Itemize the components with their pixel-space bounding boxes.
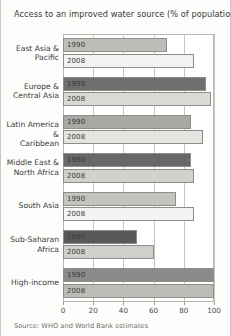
bar: 2008 (63, 284, 214, 298)
gridline-100 (214, 34, 215, 302)
bar-year-label: 2008 (67, 172, 85, 181)
source-note: Source: WHO and World Bank estimates (14, 322, 148, 330)
bar-group: 19902008 (63, 192, 214, 222)
bar: 2008 (63, 130, 203, 144)
x-tick (184, 302, 185, 305)
bar-year-label: 1990 (67, 233, 85, 242)
bar: 1990 (63, 192, 176, 206)
bar-group: 19902008 (63, 77, 214, 107)
bar-year-label: 1990 (67, 118, 85, 127)
x-tick (63, 302, 64, 305)
bar: 2008 (63, 207, 194, 221)
category-label: Europe & Central Asia (1, 82, 59, 101)
x-tick (154, 302, 155, 305)
bar-year-label: 2008 (67, 248, 85, 257)
bar-year-label: 1990 (67, 156, 85, 165)
category-label: East Asia & Pacific (1, 44, 59, 63)
category-label: High-income (1, 278, 59, 288)
x-tick-label: 80 (179, 306, 188, 315)
bar: 1990 (63, 38, 167, 52)
category-label: South Asia (1, 201, 59, 211)
bar: 1990 (63, 115, 191, 129)
bar-year-label: 1990 (67, 80, 85, 89)
bar: 2008 (63, 92, 211, 106)
x-tick (123, 302, 124, 305)
x-tick (214, 302, 215, 305)
bar-group: 19902008 (63, 268, 214, 298)
category-label: Latin America & Caribbean (1, 120, 59, 149)
x-tick (93, 302, 94, 305)
bar: 2008 (63, 54, 194, 68)
bar: 2008 (63, 245, 154, 259)
bar-group: 19902008 (63, 153, 214, 183)
x-tick-label: 60 (149, 306, 158, 315)
bar-year-label: 2008 (67, 95, 85, 104)
x-axis: 020406080100 (63, 302, 214, 318)
bar-year-label: 2008 (67, 210, 85, 219)
bar-groups: 1990200819902008199020081990200819902008… (63, 34, 214, 302)
bar-group: 19902008 (63, 38, 214, 68)
bar: 1990 (63, 230, 137, 244)
chart-title: Access to an improved water source (% of… (14, 9, 226, 20)
bar: 1990 (63, 153, 191, 167)
category-axis-labels: East Asia & PacificEurope & Central Asia… (1, 34, 63, 302)
bar-year-label: 1990 (67, 195, 85, 204)
bar: 1990 (63, 77, 206, 91)
x-tick-label: 100 (207, 306, 221, 315)
bar-year-label: 2008 (67, 57, 85, 66)
bar-group: 19902008 (63, 230, 214, 260)
chart-figure: Access to an improved water source (% of… (0, 0, 231, 336)
category-label: Sub-Saharan Africa (1, 235, 59, 254)
x-tick-label: 40 (119, 306, 128, 315)
bar: 1990 (63, 268, 214, 282)
bar-year-label: 1990 (67, 41, 85, 50)
bar-group: 19902008 (63, 115, 214, 145)
category-label: Middle East & North Africa (1, 158, 59, 177)
bar-year-label: 2008 (67, 287, 85, 296)
bar-year-label: 2008 (67, 133, 85, 142)
bar: 2008 (63, 169, 194, 183)
x-tick-label: 0 (61, 306, 66, 315)
plot-area: 1990200819902008199020081990200819902008… (63, 34, 214, 302)
x-tick-label: 20 (89, 306, 98, 315)
bar-year-label: 1990 (67, 271, 85, 280)
